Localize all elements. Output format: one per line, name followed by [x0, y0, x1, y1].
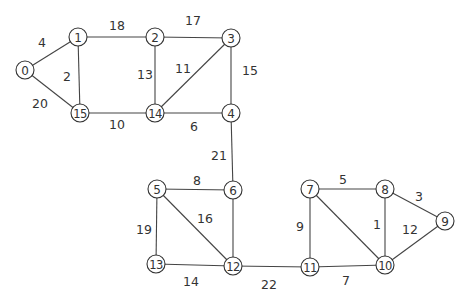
edge-weight-label: 22	[261, 277, 277, 292]
edge-weight-label: 12	[402, 222, 418, 237]
edge-weight-label: 14	[183, 274, 199, 289]
node-label: 6	[229, 184, 237, 198]
node-label: 14	[148, 107, 162, 121]
edge-5-12	[157, 189, 233, 266]
weight-labels-layer: 42021817131115106218161914229513127	[32, 13, 423, 292]
node-2: 2	[146, 28, 164, 46]
node-15: 15	[71, 104, 89, 122]
edge-weight-label: 17	[185, 13, 201, 28]
edge-3-14	[155, 38, 231, 113]
node-11: 11	[301, 258, 319, 276]
edge-weight-label: 13	[137, 67, 153, 82]
node-label: 11	[303, 261, 317, 275]
node-14: 14	[146, 104, 164, 122]
edge-weight-label: 7	[342, 273, 350, 288]
edge-weight-label: 3	[415, 189, 423, 204]
node-label: 15	[73, 107, 87, 121]
node-label: 5	[153, 183, 161, 197]
node-4: 4	[222, 104, 240, 122]
node-8: 8	[376, 180, 394, 198]
node-5: 5	[148, 180, 166, 198]
edge-1-15	[78, 37, 80, 113]
node-label: 8	[381, 183, 389, 197]
nodes-layer: 0123456789101112131415	[16, 28, 454, 276]
edge-13-12	[156, 264, 233, 266]
edge-weight-label: 20	[32, 96, 48, 111]
node-label: 10	[378, 259, 392, 273]
node-label: 3	[227, 32, 235, 46]
node-10: 10	[376, 256, 394, 274]
node-13: 13	[147, 255, 165, 273]
graph-diagram: 42021817131115106218161914229513127 0123…	[0, 0, 472, 302]
edges-layer	[25, 37, 445, 267]
edge-5-6	[157, 189, 233, 190]
edge-weight-label: 21	[211, 148, 227, 163]
edge-weight-label: 15	[242, 63, 258, 78]
node-label: 1	[74, 31, 82, 45]
edge-weight-label: 2	[63, 69, 71, 84]
node-1: 1	[69, 28, 87, 46]
node-7: 7	[301, 180, 319, 198]
node-0: 0	[16, 61, 34, 79]
edge-weight-label: 9	[296, 219, 304, 234]
edge-5-13	[156, 189, 157, 264]
node-12: 12	[224, 257, 242, 275]
node-label: 9	[441, 215, 449, 229]
edge-weight-label: 18	[109, 18, 125, 33]
edge-4-6	[231, 113, 233, 190]
node-label: 7	[306, 183, 314, 197]
edge-11-10	[310, 265, 385, 267]
edge-weight-label: 19	[136, 222, 152, 237]
node-3: 3	[222, 29, 240, 47]
node-label: 13	[149, 258, 163, 272]
node-label: 12	[226, 260, 240, 274]
graph-svg: 42021817131115106218161914229513127 0123…	[0, 0, 472, 302]
edge-weight-label: 10	[109, 117, 125, 132]
edge-weight-label: 5	[339, 172, 347, 187]
node-label: 2	[151, 31, 159, 45]
node-6: 6	[224, 181, 242, 199]
node-label: 4	[227, 107, 235, 121]
edge-weight-label: 6	[190, 119, 198, 134]
edge-12-11	[233, 266, 310, 267]
edge-weight-label: 11	[175, 61, 191, 76]
edge-weight-label: 4	[38, 35, 46, 50]
node-9: 9	[436, 212, 454, 230]
node-label: 0	[21, 64, 29, 78]
edge-weight-label: 16	[197, 211, 213, 226]
edge-weight-label: 1	[373, 217, 381, 232]
edge-2-3	[155, 37, 231, 38]
edge-weight-label: 8	[193, 173, 201, 188]
